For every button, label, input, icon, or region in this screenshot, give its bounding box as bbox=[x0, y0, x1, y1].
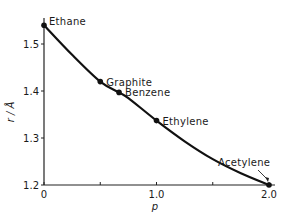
ticks: 1.21.31.41.501.02.0 bbox=[23, 39, 277, 201]
annotation-arrow-head bbox=[265, 177, 269, 182]
data-point-ethylene bbox=[154, 118, 160, 124]
point-label-ethylene: Ethylene bbox=[163, 116, 209, 127]
point-label-benzene: Benzene bbox=[125, 87, 170, 98]
bond-length-chart: 1.21.31.41.501.02.0 EthaneGraphiteBenzen… bbox=[0, 0, 289, 215]
data-point-acetylene bbox=[266, 182, 272, 188]
data-point-ethane bbox=[41, 22, 47, 28]
points-layer: EthaneGraphiteBenzeneEthyleneAcetylene bbox=[41, 16, 272, 188]
y-tick-label: 1.2 bbox=[23, 180, 39, 191]
x-tick-label: 2.0 bbox=[261, 189, 277, 200]
annotation-label-acetylene: Acetylene bbox=[218, 157, 270, 168]
data-point-graphite bbox=[97, 79, 103, 85]
data-point-benzene bbox=[116, 90, 122, 96]
point-label-ethane: Ethane bbox=[49, 16, 86, 27]
x-tick-label: 0 bbox=[41, 189, 47, 200]
y-tick-label: 1.3 bbox=[23, 133, 39, 144]
y-axis-label: r / Å bbox=[4, 102, 16, 123]
x-axis-label: p bbox=[151, 201, 158, 212]
point-label-graphite: Graphite bbox=[106, 77, 152, 88]
y-tick-label: 1.5 bbox=[23, 39, 39, 50]
y-tick-label: 1.4 bbox=[23, 86, 39, 97]
x-tick-label: 1.0 bbox=[149, 189, 165, 200]
